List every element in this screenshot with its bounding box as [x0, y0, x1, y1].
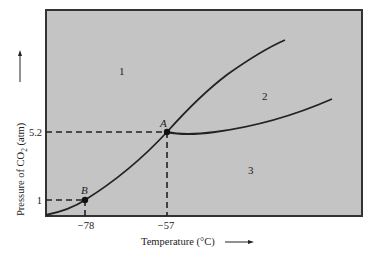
x-axis-arrow-icon: [225, 240, 254, 244]
region-1-label: 1: [119, 65, 125, 77]
y-tick-5-2: 5.2: [29, 127, 42, 138]
y-axis-label-group: Pressure of CO2 (atm): [15, 122, 29, 216]
y-axis-label: Pressure of CO2 (atm): [15, 122, 29, 216]
region-2-label: 2: [262, 90, 268, 102]
point-a-label: A: [159, 117, 167, 129]
y-tick-1: 1: [37, 195, 42, 206]
point-b-label: B: [81, 184, 88, 196]
triple-point-a: [164, 129, 170, 135]
point-b: [82, 197, 88, 203]
x-tick-minus-78: −78: [78, 220, 94, 231]
x-axis-label: Temperature (°C): [141, 236, 215, 248]
y-axis-arrow-icon: [18, 50, 22, 82]
region-3-label: 3: [248, 164, 254, 176]
phase-diagram: A B 1 2 3 5.2 1 −78 −57 Temperature (°C)…: [0, 0, 376, 254]
x-tick-minus-57: −57: [158, 220, 174, 231]
plot-area: [46, 10, 362, 216]
